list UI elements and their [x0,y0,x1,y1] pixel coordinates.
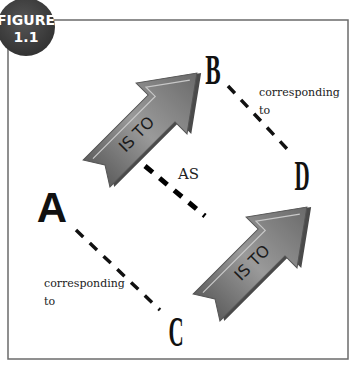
node-b: B [205,47,220,93]
analogy-diagram: FIGURE 1.1 IS TO IS TO A B C D AS corres… [0,0,361,367]
node-d: D [294,152,309,199]
label-corr-top-2: to [259,104,270,117]
connector-a-c [76,230,160,310]
label-corr-top-1: corresponding [259,86,340,99]
badge-line2: 1.1 [14,29,39,45]
node-a: A [37,184,67,231]
arrow-is-to-bottom: IS TO [181,180,337,336]
figure-badge: FIGURE 1.1 [0,0,55,56]
label-as: AS [177,165,199,183]
label-corr-bottom-2: to [44,295,55,308]
arrow-is-to-top: IS TO [71,46,227,202]
node-c: C [168,308,183,355]
label-corr-bottom-1: corresponding [44,277,125,290]
badge-line1: FIGURE [0,12,55,28]
